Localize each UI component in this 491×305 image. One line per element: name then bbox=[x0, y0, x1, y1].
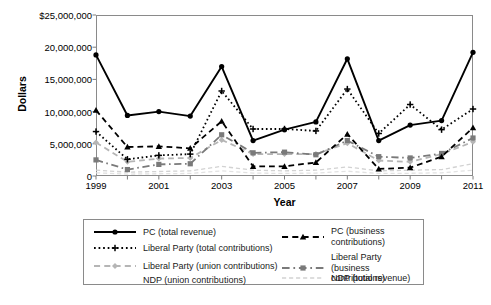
legend-line-sample bbox=[92, 226, 138, 238]
plot-area bbox=[96, 15, 473, 176]
y-tick-label: 15,000,000 bbox=[44, 74, 92, 85]
legend-label: PC (business contributions) bbox=[331, 226, 423, 247]
legend-label: Liberal Party (total contributions) bbox=[143, 243, 273, 254]
y-tick-label: $25,000,000 bbox=[39, 10, 92, 21]
x-tick-label: 2001 bbox=[148, 180, 169, 191]
x-axis-title: Year bbox=[96, 196, 473, 208]
chart-figure: 05,000,00010,000,00015,000,00020,000,000… bbox=[0, 0, 491, 305]
x-tick-label: 2009 bbox=[400, 180, 421, 191]
x-tick-label: 2007 bbox=[337, 180, 358, 191]
legend-line-sample bbox=[92, 242, 138, 254]
legend-line-sample bbox=[280, 272, 326, 284]
legend-item: PC (business contributions) bbox=[280, 226, 423, 247]
x-tick-label: 2005 bbox=[274, 180, 295, 191]
y-tick-label: 20,000,000 bbox=[44, 42, 92, 53]
legend-item: NDP (total revenue) bbox=[280, 272, 410, 284]
y-axis-title: Dollars bbox=[16, 59, 28, 129]
x-tick-label: 1999 bbox=[85, 180, 106, 191]
legend-item: PC (total revenue) bbox=[92, 226, 216, 238]
legend-item: NDP (union contributions) bbox=[92, 274, 246, 286]
legend-line-sample bbox=[92, 274, 138, 286]
legend-line-sample bbox=[280, 231, 326, 243]
legend-entries: PC (total revenue)PC (business contribut… bbox=[84, 220, 423, 284]
legend-line-sample bbox=[92, 260, 138, 272]
legend-label: NDP (total revenue) bbox=[331, 273, 410, 284]
x-tick-label: 2003 bbox=[211, 180, 232, 191]
x-tick-label: 2011 bbox=[463, 180, 483, 191]
x-axis-tick-labels: 1999200120032005200720092011 bbox=[0, 180, 491, 196]
y-tick-label: 5,000,000 bbox=[50, 138, 92, 149]
legend-label: Liberal Party (union contributions) bbox=[143, 261, 278, 272]
legend-label: PC (total revenue) bbox=[143, 227, 216, 238]
y-tick-label: 10,000,000 bbox=[44, 106, 92, 117]
y-axis-tick-labels: 05,000,00010,000,00015,000,00020,000,000… bbox=[0, 0, 92, 305]
legend-label: NDP (union contributions) bbox=[143, 275, 246, 286]
legend-item: Liberal Party (total contributions) bbox=[92, 242, 273, 254]
chart-legend: PC (total revenue)PC (business contribut… bbox=[83, 219, 424, 285]
legend-item: Liberal Party (union contributions) bbox=[92, 260, 278, 272]
